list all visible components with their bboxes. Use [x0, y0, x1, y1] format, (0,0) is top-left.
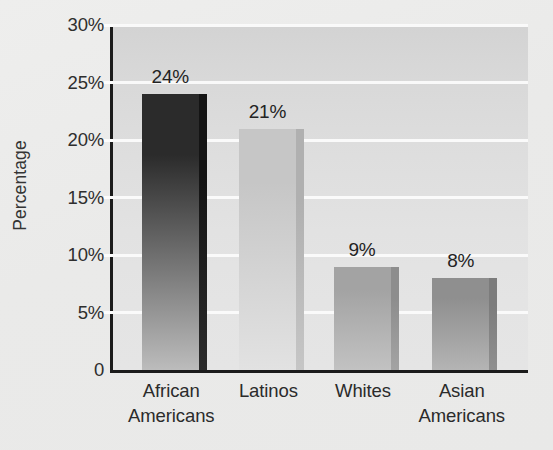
x-category-label-line1: Whites: [335, 380, 391, 401]
bar-side-face: [489, 278, 497, 370]
y-axis-title: Percentage: [0, 0, 40, 370]
y-tick-mark: [104, 196, 113, 199]
x-category-label: Latinos: [239, 378, 298, 403]
x-category-label-line1: Asian: [439, 380, 485, 401]
y-axis-title-text: Percentage: [10, 140, 31, 231]
x-category-label: AsianAmericans: [419, 378, 506, 428]
y-tick-mark: [104, 81, 113, 84]
x-category-label: AfricanAmericans: [128, 378, 215, 428]
bar-face: [239, 129, 296, 371]
bar-value-label: 24%: [152, 66, 189, 88]
y-tick-mark: [104, 311, 113, 314]
gridline: [113, 24, 528, 27]
y-tick-mark: [104, 24, 113, 27]
bar-side-face: [391, 267, 399, 371]
x-category-label-line1: Latinos: [239, 380, 298, 401]
y-tick-label: 10%: [68, 244, 104, 266]
y-axis-tick-labels: 05%10%15%20%25%30%: [38, 0, 108, 395]
bar-side-face: [296, 129, 304, 371]
bar[interactable]: [239, 129, 304, 371]
bar-side-face: [199, 94, 207, 370]
y-tick-label: 20%: [68, 129, 104, 151]
y-tick-label: 0: [94, 359, 104, 381]
bar[interactable]: [334, 267, 399, 371]
bar-face: [432, 278, 489, 370]
x-axis-category-labels: AfricanAmericansLatinosWhitesAsianAmeric…: [110, 378, 525, 448]
bar[interactable]: [142, 94, 207, 370]
y-tick-label: 5%: [78, 302, 104, 324]
x-category-label-line2: Americans: [419, 403, 506, 428]
x-category-label: Whites: [335, 378, 391, 403]
plot-area: 24%21%9%8%: [110, 25, 528, 373]
y-tick-label: 30%: [68, 14, 104, 36]
x-category-label-line2: Americans: [128, 403, 215, 428]
bar-face: [334, 267, 391, 371]
bar-value-label: 9%: [348, 239, 375, 261]
y-tick-label: 25%: [68, 72, 104, 94]
bar-value-label: 21%: [249, 101, 286, 123]
bar-value-label: 8%: [447, 250, 474, 272]
bar[interactable]: [432, 278, 497, 370]
bar-face: [142, 94, 199, 370]
y-tick-mark: [104, 139, 113, 142]
y-tick-mark: [104, 254, 113, 257]
x-category-label-line1: African: [143, 380, 200, 401]
bar-chart-figure: Percentage 05%10%15%20%25%30% 24%21%9%8%…: [0, 0, 553, 450]
y-tick-label: 15%: [68, 187, 104, 209]
